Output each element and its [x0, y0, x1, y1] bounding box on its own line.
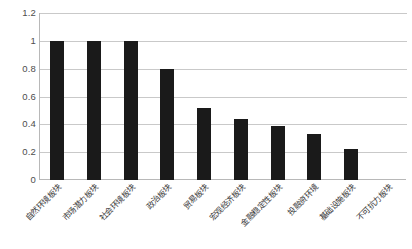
x-label-slot: 社会环境板块: [112, 181, 149, 249]
x-tick-label: 自然环境板块: [24, 183, 63, 222]
bar: [307, 134, 321, 180]
bar-slot: [333, 13, 370, 180]
bar: [271, 126, 285, 180]
bar: [50, 41, 64, 180]
bar-slot: [39, 13, 76, 180]
x-tick-label: 政治板块: [145, 183, 173, 211]
bar-slot: [76, 13, 113, 180]
bar-slot: [112, 13, 149, 180]
bar: [124, 41, 138, 180]
y-tick-label: 0: [2, 175, 36, 185]
x-tick-label: 贸易板块: [182, 183, 210, 211]
bar-slot: [259, 13, 296, 180]
bar-slot: [223, 13, 260, 180]
bar-series: [39, 13, 406, 180]
y-axis-tick-labels: 1.2 1 0.8 0.6 0.4 0.2 0: [0, 13, 36, 180]
bar-chart: 1.2 1 0.8 0.6 0.4 0.2 0 自然环境板块 市场潜力板块 社会…: [0, 0, 412, 249]
y-tick-label: 1: [2, 36, 36, 46]
bar-slot: [369, 13, 406, 180]
y-tick-label: 0.6: [2, 92, 36, 102]
x-axis-tick-labels: 自然环境板块 市场潜力板块 社会环境板块 政治板块 贸易板块 宏观经济板块 金融…: [39, 181, 406, 249]
bar-slot: [149, 13, 186, 180]
bar: [160, 69, 174, 180]
x-label-slot: 不可抗力板块: [369, 181, 406, 249]
bar: [234, 119, 248, 180]
y-tick-label: 0.8: [2, 64, 36, 74]
bar: [197, 108, 211, 180]
bar-slot: [296, 13, 333, 180]
y-tick-label: 1.2: [2, 8, 36, 18]
bar-slot: [186, 13, 223, 180]
bar: [87, 41, 101, 180]
y-tick-label: 0.2: [2, 147, 36, 157]
bar: [344, 149, 358, 180]
y-tick-label: 0.4: [2, 120, 36, 130]
x-label-slot: 政治板块: [149, 181, 186, 249]
